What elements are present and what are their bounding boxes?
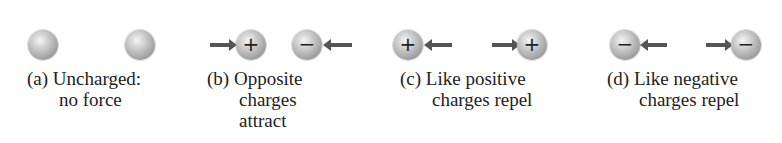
negative-sphere-right: − <box>731 30 761 60</box>
caption-b: (b) Opposite charges attract <box>207 68 303 131</box>
arrow-right-icon <box>492 43 513 47</box>
caption-line: charges repel <box>607 89 739 110</box>
arrow-right-icon <box>210 43 230 47</box>
caption-line: Opposite <box>234 68 303 89</box>
positive-sphere-right: + <box>517 30 547 60</box>
caption-letter: (d) <box>607 68 629 89</box>
caption-line: charges repel <box>400 89 532 110</box>
arrow-right-icon <box>706 43 726 47</box>
caption-c: (c) Like positive charges repel <box>400 68 532 110</box>
caption-d: (d) Like negative charges repel <box>607 68 739 110</box>
plus-sign: + <box>517 30 547 60</box>
plus-sign: + <box>393 30 423 60</box>
negative-sphere: − <box>292 30 322 60</box>
minus-sign: − <box>610 30 640 60</box>
arrow-left-icon <box>647 43 667 47</box>
positive-sphere: + <box>236 30 266 60</box>
caption-letter: (b) <box>207 68 229 89</box>
negative-sphere-left: − <box>610 30 640 60</box>
caption-line: attract <box>207 110 303 131</box>
positive-sphere-left: + <box>393 30 423 60</box>
arrow-left-icon <box>330 43 352 47</box>
minus-sign: − <box>292 30 322 60</box>
caption-line: Like negative <box>634 68 738 89</box>
panel-opposite-attract: + − (b) Opposite charges attract + + (c)… <box>0 0 782 143</box>
arrow-left-icon <box>431 43 452 47</box>
minus-sign: − <box>731 30 761 60</box>
caption-line: Like positive <box>426 68 526 89</box>
caption-letter: (c) <box>400 68 421 89</box>
plus-sign: + <box>236 30 266 60</box>
caption-line: charges <box>207 89 303 110</box>
